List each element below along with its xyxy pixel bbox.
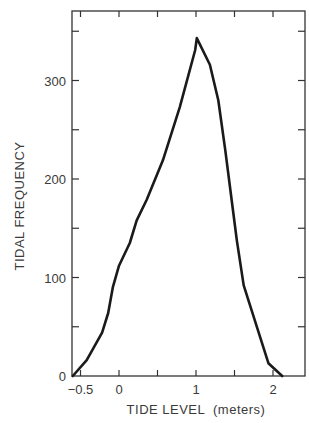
x-tick-label: −0.5 (68, 382, 94, 397)
x-tick-label: 1 (192, 382, 199, 397)
y-tick-label: 200 (44, 172, 66, 187)
y-tick-label: 100 (44, 271, 66, 286)
x-tick-label: 2 (269, 382, 276, 397)
y-tick-label: 300 (44, 74, 66, 89)
x-axis-title: TIDE LEVEL (meters) (127, 402, 266, 417)
x-tick-label: 0 (115, 382, 122, 397)
chart: −0.5012 0100200300 TIDE LEVEL (meters) T… (0, 0, 309, 423)
y-tick-label: 0 (59, 369, 66, 384)
frequency-curve (73, 38, 282, 376)
y-axis-ticks: 0100200300 (44, 31, 305, 384)
y-axis-title: TIDAL FREQUENCY (12, 141, 27, 270)
